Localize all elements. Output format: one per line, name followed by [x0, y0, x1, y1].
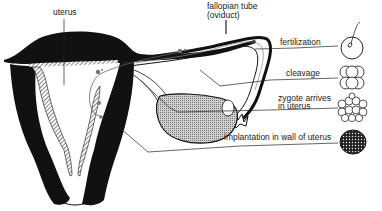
label-implantation: implantation in wall of uterus: [224, 132, 331, 142]
blastocyst-icon: [340, 130, 366, 154]
cleaving-cells-icon: [340, 66, 364, 89]
follicle: [222, 100, 234, 116]
label-fallopian-tube-line2: (oviduct): [207, 10, 240, 20]
egg-with-sperm-icon: [341, 22, 363, 59]
label-zygote-line2: in uterus: [278, 101, 311, 111]
label-cleavage: cleavage: [286, 68, 320, 78]
label-uterus: uterus: [53, 7, 77, 17]
reproductive-tract-diagram: uterus fallopian tube (oviduct) fertiliz…: [0, 0, 382, 211]
morula-icon: [338, 93, 367, 122]
label-fertilization: fertilization: [280, 37, 321, 47]
